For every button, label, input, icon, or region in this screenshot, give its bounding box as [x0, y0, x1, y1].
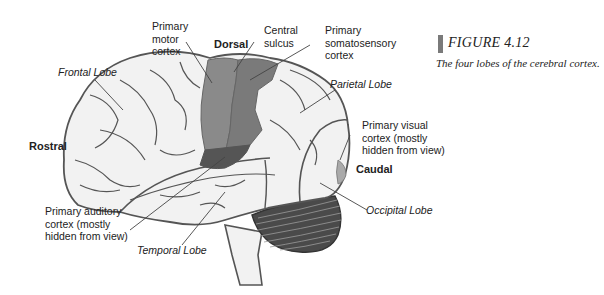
label-line: hidden from view): [45, 230, 128, 243]
label-line: cortex (mostly: [45, 218, 128, 231]
label-line: Primary auditory: [45, 205, 128, 218]
label-line: Primary: [325, 24, 396, 37]
label-central-sulcus: Central sulcus: [264, 24, 298, 49]
label-line: sulcus: [264, 37, 298, 50]
brain-diagram: Primary motor cortex Dorsal Central sulc…: [0, 0, 604, 295]
label-parietal-lobe: Parietal Lobe: [330, 78, 392, 91]
label-line: Primary visual: [362, 119, 445, 132]
label-caudal: Caudal: [356, 163, 393, 176]
label-line: Primary: [152, 20, 188, 33]
label-line: somatosensory: [325, 37, 396, 50]
label-primary-somatosensory-cortex: Primary somatosensory cortex: [325, 24, 396, 62]
label-line: cortex: [152, 45, 188, 58]
label-line: Central: [264, 24, 298, 37]
label-primary-auditory-cortex: Primary auditory cortex (mostly hidden f…: [45, 205, 128, 243]
label-frontal-lobe: Frontal Lobe: [58, 66, 117, 79]
figure-caption: The four lobes of the cerebral cortex.: [436, 57, 600, 69]
figure-accent-bar: [438, 35, 443, 53]
label-occipital-lobe: Occipital Lobe: [366, 204, 433, 217]
label-primary-visual-cortex: Primary visual cortex (mostly hidden fro…: [362, 119, 445, 157]
figure-number: FIGURE 4.12: [448, 35, 530, 51]
label-temporal-lobe: Temporal Lobe: [137, 244, 207, 257]
brain-stem: [225, 225, 262, 285]
label-line: cortex: [325, 49, 396, 62]
label-line: motor: [152, 33, 188, 46]
label-line: cortex (mostly: [362, 132, 445, 145]
label-dorsal: Dorsal: [214, 38, 248, 51]
label-line: hidden from view): [362, 144, 445, 157]
label-primary-motor-cortex: Primary motor cortex: [152, 20, 188, 58]
label-rostral: Rostral: [29, 140, 67, 153]
figure-number-text: FIGURE 4.12: [448, 35, 530, 50]
